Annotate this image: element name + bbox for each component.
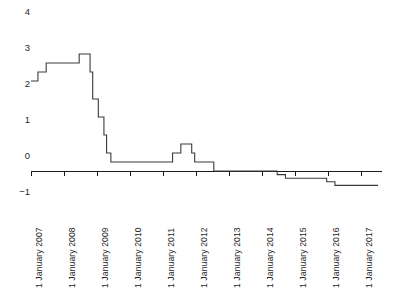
series-interest-rate	[31, 54, 378, 185]
plot-area	[0, 0, 396, 296]
chart-container: 4 3 2 1 0 −1 1 January 20071 January 200…	[0, 0, 396, 296]
x-axis-ticks	[31, 171, 361, 176]
